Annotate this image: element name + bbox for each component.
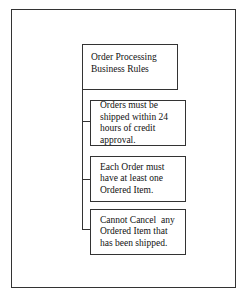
rule-node-2: Each Order must have at least one Ordere… — [90, 156, 186, 202]
rule-node-1: Orders must be shipped within 24 hours o… — [90, 100, 186, 146]
rule-text-2: Each Order must have at least one Ordere… — [100, 162, 180, 197]
connector-line-1 — [82, 121, 90, 122]
tree-trunk-line — [82, 89, 83, 230]
rule-node-3: Cannot Cancel any Ordered Item that has … — [90, 209, 186, 255]
connector-line-2 — [82, 179, 90, 180]
root-node: Order Processing Business Rules — [82, 44, 178, 90]
rule-text-1: Orders must be shipped within 24 hours o… — [100, 100, 180, 146]
connector-line-3 — [82, 229, 90, 230]
root-title-line-2: Business Rules — [91, 64, 177, 76]
root-title-line-1: Order Processing — [91, 52, 177, 64]
rule-text-3: Cannot Cancel any Ordered Item that has … — [100, 215, 180, 250]
